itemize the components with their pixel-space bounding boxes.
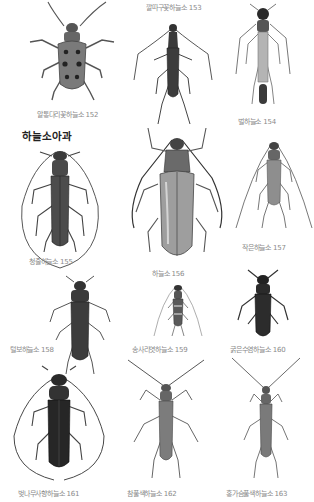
beetle-illustration-155	[12, 146, 108, 270]
beetle-illustration-152	[22, 0, 122, 105]
caption-152: 알통다리꽃하늘소 152	[37, 109, 98, 119]
caption-159: 송사리엿하늘소 159	[132, 344, 187, 354]
caption-160: 굵은수염하늘소 160	[230, 344, 285, 354]
beetle-illustration-158	[40, 276, 120, 376]
beetle-illustration-162	[126, 360, 206, 484]
beetle-illustration-154	[228, 4, 298, 114]
caption-154: 벌하늘소 154	[238, 116, 276, 126]
caption-153: 깔따구꽃하늘소 153	[146, 2, 201, 12]
beetle-illustration-159	[148, 280, 208, 342]
caption-161: 벚나무사향하늘소 161	[18, 488, 79, 498]
caption-163: 홍가슴풀색하늘소 163	[226, 488, 287, 498]
section-heading: 하늘소아과	[22, 128, 72, 143]
beetle-illustration-156	[122, 128, 232, 266]
beetle-illustration-160	[228, 270, 298, 342]
beetle-illustration-153	[128, 14, 218, 129]
caption-162: 참풀색하늘소 162	[127, 488, 177, 498]
caption-155: 청줄하늘소 155	[29, 256, 73, 266]
beetle-illustration-157	[234, 132, 314, 232]
caption-157: 작은하늘소 157	[242, 242, 286, 252]
beetle-illustration-161	[4, 366, 114, 484]
beetle-illustration-163	[226, 358, 306, 484]
caption-158: 털보하늘소 158	[10, 344, 54, 354]
caption-156: 하늘소 156	[152, 268, 184, 278]
